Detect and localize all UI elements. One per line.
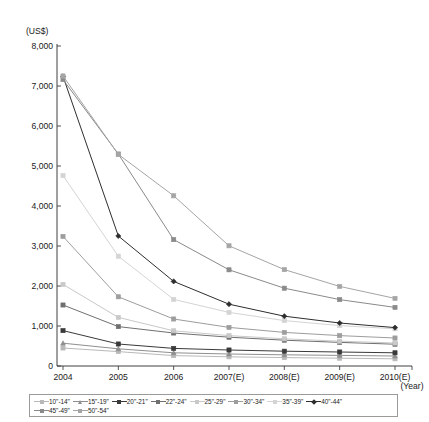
series-22in-24in [61,303,397,346]
legend-swatch-icon [267,398,282,405]
legend-item: 35"-39" [267,398,303,406]
legend-label: 40"-44" [321,398,342,406]
series-data-point [227,268,231,272]
series-data-point [338,350,342,354]
legend-item: 40"-44" [306,398,342,406]
legend-item: 22"-24" [151,398,187,406]
legend-row-primary: 10"-14"15"-19"20"-21"22"-24"25"-29"30"-3… [34,397,394,406]
legend-swatch-icon [228,398,243,405]
y-axis-tick-label: 6,000 [31,121,53,131]
legend-item: 20"-21" [112,398,148,406]
x-axis-unit-label: (Year) [400,381,423,391]
legend-swatch-icon [151,398,166,405]
legend-label: 30"-34" [243,398,264,406]
series-45in-49in [61,78,397,310]
series-40in-44in [60,74,397,330]
series-data-point [116,315,120,319]
series-data-point [393,351,397,355]
legend-swatch-icon [34,398,49,405]
legend-item: 45"-49" [34,407,70,415]
series-data-point [61,74,65,78]
x-axis-tick-label: 2009(E) [324,372,355,382]
series-data-point [227,244,231,248]
y-axis-tick-label: 8,000 [31,41,53,51]
series-line [63,80,395,308]
series-data-point [338,339,342,343]
series-data-point [116,254,120,258]
legend-label: 10"-14" [49,398,70,406]
series-50in-54in [61,74,397,301]
series-data-point [282,286,286,290]
legend-label: 15"-19" [88,398,109,406]
legend-label: 22"-24" [166,398,187,406]
series-data-point [116,152,120,156]
price-trend-line-chart: (US$)01,0002,0003,0004,0005,0006,0007,00… [0,0,429,422]
series-data-point [282,314,287,319]
x-axis-tick-label: 2010(E) [380,372,411,382]
series-35in-39in [61,174,397,331]
y-axis-tick-label: 2,000 [31,281,53,291]
series-data-point [282,349,286,353]
series-data-point [116,342,120,346]
series-data-point [393,296,397,300]
series-data-point [227,348,231,352]
series-data-point [393,336,397,340]
series-data-point [393,341,397,345]
x-axis-tick-label: 2006 [164,372,183,382]
series-data-point [282,268,286,272]
legend-item: 15"-19" [73,398,109,406]
y-axis-tick-label: 3,000 [31,241,53,251]
legend-item: 50"-54" [73,407,109,415]
series-data-point [338,284,342,288]
legend-label: 25"-29" [205,398,226,406]
series-data-point [61,282,65,286]
x-axis-tick-label: 2007(E) [214,372,245,382]
series-data-point [172,317,176,321]
legend-label: 50"-54" [88,407,109,415]
y-axis-tick-label: 0 [48,361,53,371]
y-axis-tick-label: 1,000 [31,321,53,331]
y-axis-tick-label: 7,000 [31,81,53,91]
legend-swatch-icon [34,407,49,414]
legend-swatch-icon [73,398,88,405]
legend-swatch-icon [190,398,205,405]
page-top-artifact [0,0,429,10]
series-data-point [226,302,231,307]
legend-item: 30"-34" [228,398,264,406]
x-axis-tick-label: 2008(E) [269,372,300,382]
legend-label: 20"-21" [127,398,148,406]
series-data-point [116,325,120,329]
series-data-point [172,194,176,198]
legend-item: 25"-29" [190,398,226,406]
legend-swatch-icon [306,398,321,405]
series-data-point [172,238,176,242]
legend-item: 10"-14" [34,398,70,406]
series-line [63,76,395,298]
series-data-point [61,329,65,333]
series-data-point [61,174,65,178]
series-data-point [282,337,286,341]
series-data-point [338,334,342,338]
y-axis-unit-label: (US$) [26,26,49,36]
series-data-point [172,346,176,350]
legend-swatch-icon [112,398,127,405]
legend-swatch-icon [73,407,88,414]
series-data-point [61,234,65,238]
series-data-point [227,310,231,314]
chart-legend: 10"-14"15"-19"20"-21"22"-24"25"-29"30"-3… [29,394,398,417]
legend-label: 35"-39" [282,398,303,406]
series-line [63,76,395,327]
series-data-point [61,346,65,350]
series-data-point [227,334,231,338]
x-axis-tick-label: 2004 [53,372,72,382]
legend-row-secondary: 45"-49"50"-54" [34,406,394,415]
series-data-point [116,295,120,299]
series-data-point [61,303,65,307]
chart-plot-area: (US$)01,0002,0003,0004,0005,0006,0007,00… [0,0,429,392]
series-data-point [172,297,176,301]
series-data-point [338,298,342,302]
x-axis-tick-label: 2005 [109,372,128,382]
series-data-point [227,325,231,329]
y-axis-tick-label: 5,000 [31,161,53,171]
series-data-point [172,329,176,333]
